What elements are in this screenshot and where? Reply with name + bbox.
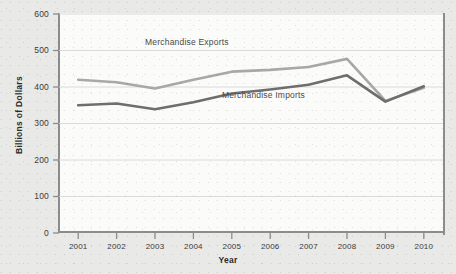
y-ticks xyxy=(53,14,59,233)
x-tick-label: 2001 xyxy=(58,242,98,251)
x-tick-label: 2005 xyxy=(212,242,252,251)
line-chart: 0100200300400500600 20012002200320042005… xyxy=(0,0,456,274)
y-tick-label: 600 xyxy=(17,9,49,19)
y-tick-label: 100 xyxy=(17,191,49,201)
series-annotation-imports: Merchandise Imports xyxy=(222,90,305,100)
y-tick-label: 0 xyxy=(17,228,49,238)
x-tick-label: 2003 xyxy=(135,242,175,251)
x-tick-label: 2009 xyxy=(365,242,405,251)
x-tick-label: 2004 xyxy=(173,242,213,251)
x-tick-label: 2010 xyxy=(404,242,444,251)
x-ticks xyxy=(78,233,424,239)
x-tick-label: 2002 xyxy=(97,242,137,251)
x-tick-label: 2008 xyxy=(327,242,367,251)
series-lines xyxy=(78,59,424,109)
y-axis-title: Billions of Dollars xyxy=(14,50,24,180)
x-tick-label: 2006 xyxy=(250,242,290,251)
x-tick-label: 2007 xyxy=(289,242,329,251)
series-annotation-exports: Merchandise Exports xyxy=(145,37,229,47)
y-gridlines xyxy=(59,14,443,197)
x-axis-title: Year xyxy=(0,255,456,265)
